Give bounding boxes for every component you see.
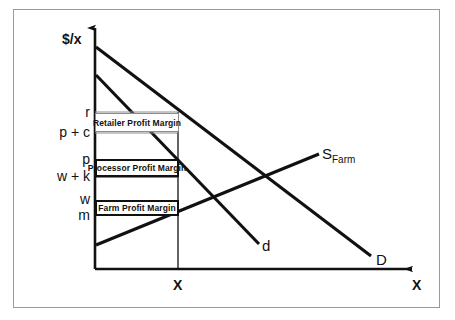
price-tick-r: r — [33, 105, 90, 119]
curve-label-sfarm: SFarm — [322, 146, 355, 165]
farm-profit-margin-box: Farm Profit Margin — [95, 200, 179, 216]
farm-profit-margin-label: Farm Profit Margin — [98, 203, 175, 213]
price-tick-w: w — [33, 192, 90, 206]
processor-profit-margin-label: Processor Profit Margin — [88, 163, 187, 173]
price-tick-m: m — [33, 208, 90, 222]
price-tick-p-plus-c: p + c — [33, 125, 90, 139]
figure-root: Retailer Profit Margin Processor Profit … — [0, 0, 455, 320]
retailer-profit-margin-label: Retailer Profit Margin — [93, 118, 181, 128]
y-axis-label: $/x — [62, 32, 81, 46]
x-axis-tick-quantity: X — [173, 278, 182, 292]
processor-profit-margin-box: Processor Profit Margin — [95, 159, 179, 177]
retailer-profit-margin-box: Retailer Profit Margin — [95, 113, 179, 132]
curve-label-d: d — [262, 238, 270, 253]
price-tick-p: p — [33, 152, 90, 166]
price-tick-w-plus-k: w + k — [33, 169, 90, 183]
curve-label-D: D — [376, 252, 387, 267]
curve-label-sfarm-base: S — [322, 145, 332, 162]
curve-label-sfarm-subscript: Farm — [332, 154, 355, 165]
x-axis-label: X — [412, 278, 421, 292]
